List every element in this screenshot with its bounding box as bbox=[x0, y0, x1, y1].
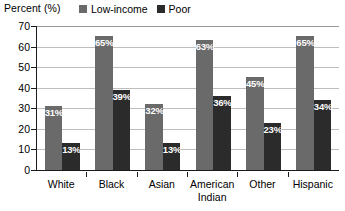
bar-value-label: 65% bbox=[296, 37, 314, 48]
y-tick-label: 30 bbox=[8, 103, 30, 114]
legend-swatch-icon bbox=[157, 5, 165, 13]
x-axis-separator bbox=[86, 172, 87, 177]
legend-label: Poor bbox=[169, 3, 191, 15]
bar-value-label: 63% bbox=[196, 41, 214, 52]
bar: 65% bbox=[296, 36, 314, 170]
bar: 39% bbox=[113, 90, 131, 170]
legend-entry[interactable]: Low-income bbox=[79, 3, 148, 15]
x-axis-separator bbox=[137, 172, 138, 177]
x-axis-category-label: Other bbox=[237, 178, 287, 191]
bar-value-label: 13% bbox=[62, 144, 80, 155]
x-axis-category-label: Black bbox=[86, 178, 136, 191]
chart-header: Percent (%) Low-incomePoor bbox=[0, 0, 345, 20]
bar: 32% bbox=[145, 104, 163, 170]
bar-value-label: 39% bbox=[113, 91, 131, 102]
bar: 31% bbox=[45, 106, 63, 170]
bar: 45% bbox=[246, 77, 264, 170]
plot-area: 31%13%65%39%32%13%63%36%45%23%65%34% bbox=[36, 26, 339, 171]
bar-chart: Percent (%) Low-incomePoor 7060504030201… bbox=[0, 0, 345, 211]
x-axis: WhiteBlackAsianAmerican IndianOtherHispa… bbox=[36, 172, 338, 211]
legend-entry[interactable]: Poor bbox=[157, 3, 191, 15]
chart-legend: Low-incomePoor bbox=[79, 3, 191, 15]
bar-value-label: 34% bbox=[314, 101, 332, 112]
bars-layer: 31%13%65%39%32%13%63%36%45%23%65%34% bbox=[37, 26, 339, 170]
y-tick-label: 50 bbox=[8, 62, 30, 73]
bar: 36% bbox=[213, 96, 231, 170]
bar-value-label: 45% bbox=[246, 78, 264, 89]
bar: 65% bbox=[95, 36, 113, 170]
x-axis-category-label: Asian bbox=[137, 178, 187, 191]
y-axis-title: Percent (%) bbox=[4, 2, 61, 15]
y-tick-label: 10 bbox=[8, 144, 30, 155]
x-axis-category-label: American Indian bbox=[187, 178, 237, 203]
bar: 23% bbox=[264, 123, 282, 170]
bar: 63% bbox=[196, 40, 214, 170]
legend-label: Low-income bbox=[91, 3, 148, 15]
y-tick-label: 40 bbox=[8, 83, 30, 94]
y-tick-label: 70 bbox=[8, 21, 30, 32]
bar: 34% bbox=[314, 100, 332, 170]
x-axis-separator bbox=[288, 172, 289, 177]
y-tick-label: 60 bbox=[8, 42, 30, 53]
bar-value-label: 13% bbox=[163, 144, 181, 155]
legend-swatch-icon bbox=[79, 5, 87, 13]
y-tick-label: 0 bbox=[8, 165, 30, 176]
y-tick-label: 20 bbox=[8, 124, 30, 135]
bar-value-label: 31% bbox=[45, 107, 63, 118]
bar-value-label: 32% bbox=[145, 105, 163, 116]
x-axis-separator bbox=[237, 172, 238, 177]
bar-value-label: 36% bbox=[213, 97, 231, 108]
x-axis-category-label: Hispanic bbox=[288, 178, 338, 191]
bar: 13% bbox=[62, 143, 80, 170]
x-axis-separator bbox=[187, 172, 188, 177]
x-axis-category-label: White bbox=[36, 178, 86, 191]
bar: 13% bbox=[163, 143, 181, 170]
bar-value-label: 65% bbox=[95, 37, 113, 48]
bar-value-label: 23% bbox=[264, 124, 282, 135]
